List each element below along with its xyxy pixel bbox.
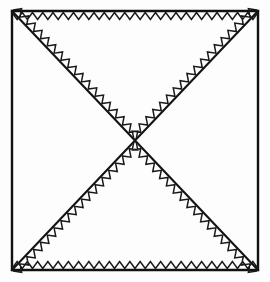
figure-root	[0, 0, 270, 282]
zigzag-square-diagram	[0, 0, 270, 282]
